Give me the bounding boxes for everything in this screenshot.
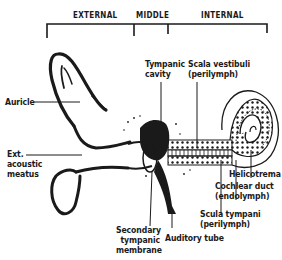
section-label-internal: INTERNAL <box>201 11 244 20</box>
label-line: membrane <box>116 245 160 255</box>
label-scala-vestibuli: Scala vestibuli (perilymph) <box>188 59 250 79</box>
section-bracket <box>47 24 267 38</box>
label-line: Ext. <box>7 149 42 159</box>
label-secondary-tympanic-membrane: Secondary tympanic membrane <box>116 225 160 255</box>
label-line: acoustic <box>7 159 42 169</box>
cochlea <box>168 91 278 168</box>
label-line: Secondary <box>116 225 160 235</box>
label-line: cavity <box>145 69 185 79</box>
label-scala-tympani: Scula tympani (perilymph) <box>200 209 261 229</box>
auricle-shape <box>50 54 130 214</box>
label-cochlear-duct: Cochlear duct (endolymph) <box>215 181 274 201</box>
label-line: (perilymph) <box>200 219 261 229</box>
label-line: meatus <box>7 169 42 179</box>
label-line: Tympanic <box>145 59 185 69</box>
label-line: Scula tympani <box>200 209 261 219</box>
label-line: Scala vestibuli <box>188 59 250 69</box>
label-line: (endolymph) <box>215 191 274 201</box>
label-auricle: Auricle <box>5 97 35 107</box>
label-line: tympanic <box>116 235 160 245</box>
section-label-external: EXTERNAL <box>73 11 117 20</box>
label-ext-acoustic-meatus: Ext. acoustic meatus <box>7 149 42 179</box>
label-helicotrema: Helicotrema <box>229 169 281 179</box>
label-auditory-tube: Auditory tube <box>165 233 224 243</box>
label-line: Cochlear duct <box>215 181 274 191</box>
label-line: (perilymph) <box>188 69 250 79</box>
section-label-middle: MIDDLE <box>136 11 169 20</box>
label-tympanic-cavity: Tympanic cavity <box>145 59 185 79</box>
